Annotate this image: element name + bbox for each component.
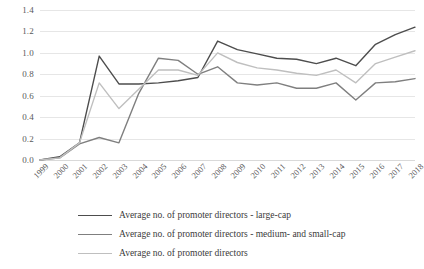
legend-item[interactable]: Average no. of promoter directors <box>78 244 408 263</box>
y-axis-tick-label: 0.2 <box>22 134 34 143</box>
series-line-2 <box>40 58 415 160</box>
legend-item[interactable]: Average no. of promoter directors - larg… <box>78 206 408 225</box>
y-axis-tick-label: 0.0 <box>22 156 34 165</box>
legend-line-swatch <box>78 215 112 216</box>
chart-legend: Average no. of promoter directors - larg… <box>78 206 408 266</box>
y-axis: 0.00.20.40.60.81.01.21.4 <box>0 0 38 170</box>
legend-item[interactable]: Average no. of promoter directors - medi… <box>78 225 408 244</box>
y-axis-tick-label: 0.6 <box>22 91 34 100</box>
legend-label: Average no. of promoter directors <box>119 248 248 259</box>
y-axis-tick-label: 0.4 <box>22 113 34 122</box>
y-axis-tick-label: 1.4 <box>22 6 34 15</box>
line-chart: 0.00.20.40.60.81.01.21.4 199920002001200… <box>0 0 424 269</box>
plot-area: 0.00.20.40.60.81.01.21.4 <box>0 0 424 170</box>
y-axis-tick-label: 1.2 <box>22 27 34 36</box>
y-axis-tick-label: 1.0 <box>22 48 34 57</box>
legend-label: Average no. of promoter directors - larg… <box>119 210 291 221</box>
legend-line-swatch <box>78 253 112 254</box>
legend-label: Average no. of promoter directors - medi… <box>119 229 345 240</box>
series-lines <box>40 10 415 160</box>
y-axis-tick-label: 0.8 <box>22 70 34 79</box>
x-axis: 1999200020012002200320042005200620072008… <box>40 162 415 206</box>
legend-line-swatch <box>78 234 112 235</box>
